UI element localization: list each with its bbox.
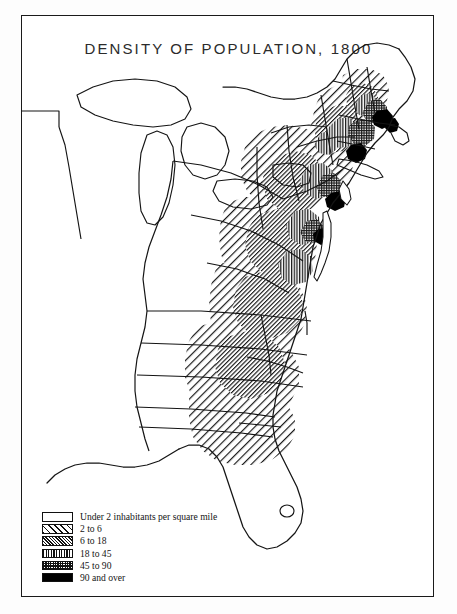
map-legend: Under 2 inhabitants per square mile 2 to… [42,511,292,584]
legend-label-90-and-over: 90 and over [80,573,125,583]
legend-item-2-to-6: 2 to 6 [42,523,292,535]
legend-item-under-2: Under 2 inhabitants per square mile [42,511,292,523]
legend-label-6-to-18: 6 to 18 [80,536,107,546]
legend-swatch-vertical-lines [42,549,73,559]
legend-swatch-solid-black [42,573,73,583]
legend-item-18-to-45: 18 to 45 [42,547,292,559]
map-graphic [21,15,434,597]
legend-swatch-blank [42,512,73,522]
legend-swatch-hatch-sparse [42,524,73,534]
legend-item-90-and-over: 90 and over [42,571,292,583]
map-land-areas [21,43,415,549]
legend-label-18-to-45: 18 to 45 [80,549,111,559]
legend-item-45-to-90: 45 to 90 [42,559,292,571]
legend-label-45-to-90: 45 to 90 [80,561,111,571]
legend-swatch-crosshatch [42,561,73,571]
legend-label-under-2: Under 2 inhabitants per square mile [80,512,217,522]
legend-swatch-hatch-dense [42,536,73,546]
map-figure: DENSITY OF POPULATION, 1800 [0,0,457,614]
legend-label-2-to-6: 2 to 6 [80,524,102,534]
legend-item-6-to-18: 6 to 18 [42,535,292,547]
